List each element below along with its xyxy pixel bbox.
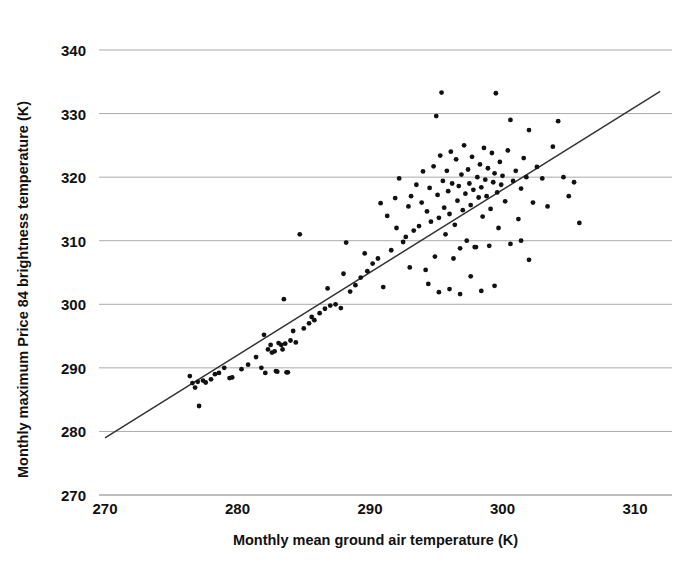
data-point [268, 343, 273, 348]
data-point [254, 355, 259, 360]
data-point [431, 164, 436, 169]
data-point [561, 175, 566, 180]
y-tick-label: 300 [40, 296, 86, 313]
data-points-group [187, 90, 581, 408]
data-point [437, 290, 442, 295]
data-point [447, 212, 452, 217]
data-point [209, 377, 214, 382]
data-point [499, 182, 504, 187]
data-point [297, 232, 302, 237]
data-point [577, 221, 582, 226]
data-point [353, 283, 358, 288]
data-point [444, 168, 449, 173]
data-point [496, 226, 501, 231]
data-point [193, 385, 198, 390]
data-point [370, 261, 375, 266]
data-point [425, 209, 430, 214]
data-point [458, 292, 463, 297]
data-point [497, 159, 502, 164]
data-point [508, 118, 513, 123]
data-point [323, 306, 328, 311]
data-point [389, 248, 394, 253]
data-point [500, 173, 505, 178]
gridlines-group [99, 50, 672, 495]
data-point [417, 224, 422, 229]
data-point [513, 168, 518, 173]
data-point [492, 171, 497, 176]
data-point [572, 180, 577, 185]
x-tick-label: 300 [490, 500, 515, 517]
data-point [556, 119, 561, 124]
data-point [468, 274, 473, 279]
data-point [423, 268, 428, 273]
data-point [535, 165, 540, 170]
data-point [309, 315, 314, 320]
data-point [438, 153, 443, 158]
data-point [203, 380, 208, 385]
data-point [187, 374, 192, 379]
data-point [328, 303, 333, 308]
data-point [480, 214, 485, 219]
data-point [437, 215, 442, 220]
data-point [511, 179, 516, 184]
data-point [521, 156, 526, 161]
data-point [272, 349, 277, 354]
data-point [385, 214, 390, 219]
x-tick-label: 280 [225, 500, 250, 517]
data-point [301, 326, 306, 331]
data-point [508, 241, 513, 246]
data-point [435, 193, 440, 198]
data-point [263, 371, 268, 376]
data-point [275, 369, 280, 374]
data-point [545, 204, 550, 209]
data-point [419, 200, 424, 205]
y-tick-label: 280 [40, 423, 86, 440]
data-point [451, 256, 456, 261]
data-point [401, 240, 406, 245]
data-point [487, 243, 492, 248]
data-point [456, 184, 461, 189]
data-point [450, 181, 455, 186]
data-point [452, 222, 457, 227]
data-point [348, 289, 353, 294]
data-point [266, 347, 271, 352]
regression-line [105, 91, 660, 437]
data-point [458, 246, 463, 251]
data-point [478, 162, 483, 167]
data-point [288, 338, 293, 343]
data-point [222, 365, 227, 370]
scatter-chart: 270280290300310320330340 270280290300310… [0, 0, 699, 579]
data-point [503, 199, 508, 204]
data-point [280, 347, 285, 352]
data-point [491, 180, 496, 185]
data-point [427, 186, 432, 191]
data-point [470, 154, 475, 159]
data-point [479, 289, 484, 294]
data-point [259, 365, 264, 370]
data-point [426, 282, 431, 287]
data-point [411, 228, 416, 233]
data-point [474, 245, 479, 250]
data-point [381, 285, 386, 290]
y-tick-label: 310 [40, 232, 86, 249]
data-point [479, 185, 484, 190]
data-point [407, 265, 412, 270]
data-point [463, 191, 468, 196]
data-point [516, 217, 521, 222]
data-point [440, 179, 445, 184]
data-point [325, 286, 330, 291]
data-point [217, 371, 222, 376]
data-point [197, 404, 202, 409]
data-point [471, 187, 476, 192]
data-point [317, 311, 322, 316]
data-point [393, 196, 398, 201]
data-point [362, 251, 367, 256]
data-point [519, 238, 524, 243]
data-point [495, 190, 500, 195]
data-point [550, 144, 555, 149]
data-point [531, 200, 536, 205]
data-point [459, 172, 464, 177]
data-point [454, 157, 459, 162]
data-point [448, 149, 453, 154]
x-axis-title: Monthly mean ground air temperature (K) [0, 532, 699, 548]
